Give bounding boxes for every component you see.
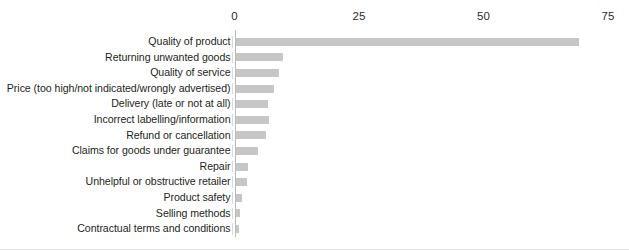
category-label: Selling methods	[3, 206, 231, 222]
x-tick-label: 75	[602, 10, 615, 22]
x-tick-label: 0	[231, 10, 238, 22]
category-label: Contractual terms and conditions	[3, 221, 231, 237]
category-label: Refund or cancellation	[3, 128, 231, 144]
category-label: Price (too high/not indicated/wrongly ad…	[3, 81, 231, 97]
bar	[236, 194, 242, 202]
x-tick-label: 50	[477, 10, 490, 22]
y-tick-mark	[232, 130, 233, 142]
bar	[236, 100, 269, 108]
y-tick-mark	[232, 114, 233, 126]
y-tick-mark	[232, 83, 233, 95]
category-label: Incorrect labelling/information	[3, 112, 231, 128]
bar-row: Price (too high/not indicated/wrongly ad…	[0, 81, 629, 97]
category-label: Claims for goods under guarantee	[3, 143, 231, 159]
bar-row: Quality of service	[0, 65, 629, 81]
y-tick-mark	[232, 36, 233, 48]
bar-row: Refund or cancellation	[0, 128, 629, 144]
y-tick-mark	[232, 145, 233, 157]
bar	[236, 147, 259, 155]
bar	[236, 38, 580, 46]
category-label: Quality of service	[3, 65, 231, 81]
bar	[236, 209, 240, 217]
y-tick-mark	[232, 192, 233, 204]
bar-row: Incorrect labelling/information	[0, 112, 629, 128]
bar-row: Claims for goods under guarantee	[0, 143, 629, 159]
y-tick-mark	[232, 208, 233, 220]
bar-chart: 0255075Quality of productReturning unwan…	[0, 0, 629, 250]
bar	[236, 53, 284, 61]
category-label: Unhelpful or obstructive retailer	[3, 174, 231, 190]
bar	[236, 178, 248, 186]
y-tick-mark	[232, 223, 233, 235]
y-tick-mark	[232, 52, 233, 64]
bar	[236, 163, 249, 171]
bar	[236, 85, 274, 93]
bar-row: Product safety	[0, 190, 629, 206]
y-tick-mark	[232, 161, 233, 173]
y-tick-mark	[232, 67, 233, 79]
category-label: Quality of product	[3, 34, 231, 50]
x-tick-label: 25	[353, 10, 366, 22]
bar	[236, 116, 270, 124]
bar-row: Selling methods	[0, 206, 629, 222]
category-label: Product safety	[3, 190, 231, 206]
y-tick-mark	[232, 98, 233, 110]
bar	[236, 131, 267, 139]
category-label: Delivery (late or not at all)	[3, 96, 231, 112]
category-label: Repair	[3, 159, 231, 175]
bar-row: Quality of product	[0, 34, 629, 50]
bar-row: Repair	[0, 159, 629, 175]
category-label: Returning unwanted goods	[3, 50, 231, 66]
bar-row: Contractual terms and conditions	[0, 221, 629, 237]
bar-row: Returning unwanted goods	[0, 50, 629, 66]
plot-area: 0255075Quality of productReturning unwan…	[0, 0, 629, 250]
bar-row: Unhelpful or obstructive retailer	[0, 174, 629, 190]
bar-row: Delivery (late or not at all)	[0, 96, 629, 112]
y-tick-mark	[232, 176, 233, 188]
bar	[236, 69, 280, 77]
bar	[236, 225, 240, 233]
